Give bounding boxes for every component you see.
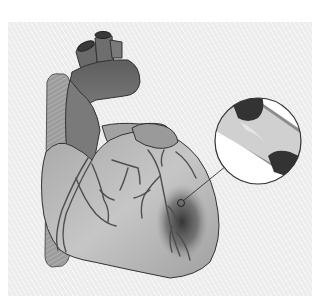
magnified-artery	[200, 92, 318, 184]
heart-illustration	[0, 0, 318, 300]
